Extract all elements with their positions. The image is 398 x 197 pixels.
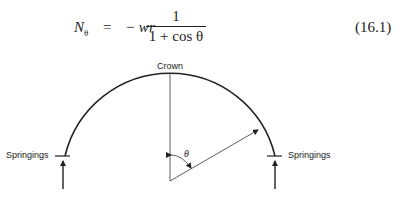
angle-theta-label: θ: [184, 148, 189, 159]
arch-diagram: [0, 0, 398, 197]
springings-left-label: Springings: [6, 150, 49, 160]
crown-label: Crown: [157, 61, 183, 71]
springings-right-label: Springings: [288, 150, 331, 160]
